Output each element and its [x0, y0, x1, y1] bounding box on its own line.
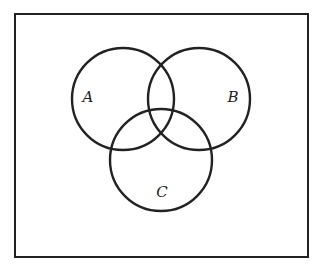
set-b-label: B [226, 88, 238, 106]
set-a-label: A [81, 88, 94, 106]
set-c-label: C [156, 183, 168, 201]
universe-rectangle [15, 14, 308, 257]
venn-diagram: A B C [0, 0, 325, 269]
